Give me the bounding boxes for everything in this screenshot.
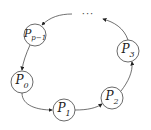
label-pp1: Pp−1 [24,28,46,42]
edge-ellipsis-pp1 [42,14,72,25]
edge-p0-p1 [22,93,52,110]
ring-diagram [0,0,151,130]
label-p2: P2 [105,90,118,105]
edge-p1-p2 [75,104,102,110]
label-p1: P1 [57,102,70,117]
label-p0: P0 [15,74,28,89]
edge-p3-ellipsis [103,19,128,40]
label-p3: P3 [121,43,134,58]
edge-p2-p3 [121,62,132,91]
ellipsis: ··· [82,8,95,19]
edge-pp1-p0 [22,45,30,70]
